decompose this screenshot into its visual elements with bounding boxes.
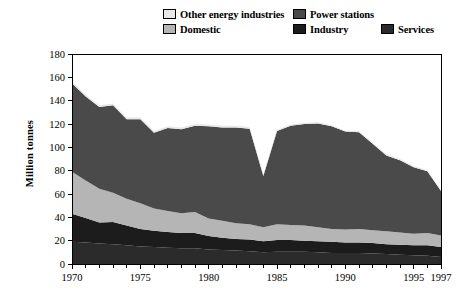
y-axis-ticks: 020406080100120140160180	[49, 49, 72, 270]
y-tick-label: 120	[49, 119, 65, 130]
plot-area: 020406080100120140160180 197019751980198…	[0, 0, 466, 301]
x-tick-label: 1970	[62, 272, 83, 283]
x-tick-label: 1997	[431, 272, 452, 283]
y-tick-label: 180	[49, 49, 65, 60]
chart-page: Other energy industries Power stations D…	[0, 0, 466, 301]
y-tick-label: 80	[55, 165, 66, 176]
stacked-area-chart: 020406080100120140160180 197019751980198…	[0, 0, 466, 301]
x-axis-ticks: 1970197519801985199019951997	[62, 264, 452, 283]
x-tick-label: 1980	[198, 272, 219, 283]
y-tick-label: 140	[49, 95, 65, 106]
y-tick-label: 160	[49, 72, 65, 83]
y-tick-label: 20	[55, 235, 66, 246]
y-tick-label: 100	[49, 142, 65, 153]
x-tick-label: 1995	[403, 272, 424, 283]
x-tick-label: 1985	[267, 272, 288, 283]
y-tick-label: 40	[55, 212, 66, 223]
y-tick-label: 60	[55, 189, 66, 200]
y-tick-label: 0	[60, 259, 65, 270]
chart-series-group	[72, 81, 441, 264]
x-tick-label: 1975	[130, 272, 151, 283]
x-tick-label: 1990	[335, 272, 356, 283]
